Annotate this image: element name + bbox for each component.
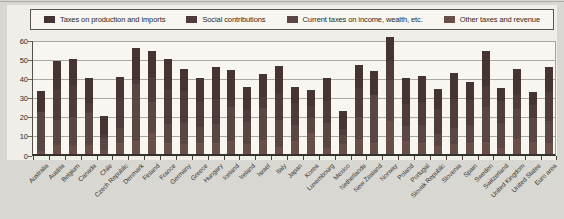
x-axis-tick [81,156,82,160]
y-axis-label-10: 10 [4,132,28,141]
bar-united-kingdom [513,69,521,154]
bar-denmark [132,48,140,154]
bar-segment [402,141,410,154]
gridline-60 [33,41,555,42]
bar-segment [53,120,61,146]
bar-segment [291,141,299,154]
bar-segment [355,65,363,88]
bar-australia [37,91,45,154]
x-axis-tick [303,156,304,160]
x-axis-tick [144,156,145,160]
bar-segment [116,77,124,98]
page-top-rule [0,1,564,2]
x-axis-tick [478,156,479,160]
bar-segment [307,106,315,118]
bar-segment [418,125,426,143]
bar-ireland [243,87,251,154]
gridline-40 [33,79,555,80]
bar-segment [307,133,315,154]
x-axis-tick [192,156,193,160]
bar-norway [386,37,394,154]
y-axis-label-50: 50 [4,56,28,65]
bar-segment [466,143,474,154]
bar-segment [482,107,490,142]
bar-segment [164,124,172,143]
scanned-chart-page: Taxes on production and importsSocial co… [0,0,564,219]
bar-netherlands [355,65,363,154]
legend-label: Taxes on production and imports [60,15,165,24]
bar-segment [497,148,505,154]
bar-greece [196,78,204,154]
x-axis-label: Iceland [221,162,240,181]
legend-label: Current taxes on income, wealth, etc. [303,15,423,24]
bar-segment [339,135,347,145]
bar-segment [196,127,204,142]
legend-swatch-icon [444,16,455,23]
bar-segment [180,123,188,144]
bar-segment [434,109,442,134]
bar-segment [243,109,251,122]
bar-segment [545,121,553,143]
bar-segment [196,102,204,127]
y-axis-label-60: 60 [4,37,28,46]
bar-segment [450,128,458,144]
bar-segment [291,87,299,103]
x-axis-tick [509,156,510,160]
bar-segment [529,142,537,154]
bar-segment [450,73,458,100]
legend-item: Current taxes on income, wealth, etc. [287,15,423,24]
x-axis-label: Japan [286,162,303,179]
x-axis-tick [462,156,463,160]
x-axis-tick [414,156,415,160]
x-axis-tick [430,156,431,160]
bar-canada [85,78,93,154]
x-axis-tick [556,156,557,160]
x-axis-tick [366,156,367,160]
plot-area: 0102030405060AustraliaAustriaBelgiumCana… [32,41,556,156]
bar-segment [259,97,267,108]
chart-legend: Taxes on production and importsSocial co… [30,9,554,30]
bar-segment [418,102,426,125]
bar-korea [307,90,315,154]
bar-segment [100,150,108,154]
bar-segment [148,102,156,133]
bar-segment [275,120,283,148]
bar-segment [291,125,299,140]
bar-segment [418,143,426,154]
bar-segment [323,148,331,154]
bar-czech-republic [116,77,124,154]
x-axis-tick [382,156,383,160]
bar-segment [513,69,521,94]
bar-segment [497,88,505,101]
y-axis-label-30: 30 [4,94,28,103]
bar-segment [402,104,410,126]
bar-chile [100,116,108,154]
y-axis-tick [28,156,32,157]
bar-segment [37,151,45,154]
bar-france [164,59,172,154]
bar-segment [69,59,77,85]
x-axis-tick [287,156,288,160]
bar-segment [100,116,108,135]
bar-germany [180,69,188,154]
x-axis-tick [319,156,320,160]
bar-segment [529,105,537,117]
bar-segment [100,138,108,150]
x-axis-tick [97,156,98,160]
bar-italy [275,66,283,154]
bar-segment [227,100,235,107]
bar-segment [212,67,220,100]
bar-segment [370,143,378,155]
bar-segment [434,134,442,146]
x-axis-tick [160,156,161,160]
bar-japan [291,87,299,154]
bar-euro-area [545,67,553,154]
x-axis-label: Australia [27,162,49,184]
y-axis-tick [28,136,32,137]
bar-segment [196,143,204,155]
bar-segment [291,103,299,125]
x-axis-tick [255,156,256,160]
bar-segment [69,85,77,117]
bar-segment [386,121,394,154]
bar-segment [370,95,378,143]
